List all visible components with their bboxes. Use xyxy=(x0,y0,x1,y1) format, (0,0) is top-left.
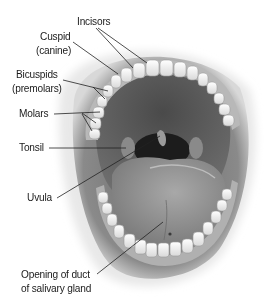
label-bicuspids: Bicuspids xyxy=(16,68,58,81)
label-uvula: Uvula xyxy=(27,191,52,204)
label-premolars: (premolars) xyxy=(12,82,62,95)
label-tonsil: Tonsil xyxy=(19,141,44,154)
label-duct-opening: Opening of duct xyxy=(21,268,90,281)
mouth-diagram: Incisors Cuspid (canine) Bicuspids (prem… xyxy=(0,0,264,302)
label-molars: Molars xyxy=(19,107,48,120)
label-cuspid: Cuspid xyxy=(40,30,70,43)
label-salivary-gland: of salivary gland xyxy=(21,282,91,295)
label-incisors: Incisors xyxy=(77,15,110,28)
label-canine: (canine) xyxy=(36,44,71,57)
